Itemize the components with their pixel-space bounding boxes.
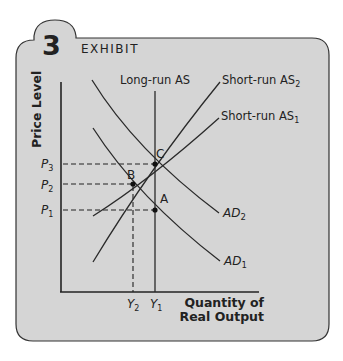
point-a-label: A: [160, 192, 169, 206]
x-axis-label-line2: Real Output: [180, 309, 265, 324]
point-a-marker: [152, 207, 157, 212]
lras-label: Long-run AS: [120, 73, 190, 87]
y-axis-label: Price Level: [29, 71, 44, 148]
sras2-label: Short-run AS2: [222, 73, 300, 89]
point-b-label: B: [127, 168, 135, 182]
exhibit-panel: [16, 20, 329, 341]
point-c-label: C: [156, 147, 164, 161]
point-b-marker: [130, 181, 135, 186]
exhibit-title: EXHIBIT: [81, 42, 139, 56]
exhibit-figure: 3 EXHIBIT Price Level C B A Long-run AS …: [0, 0, 343, 361]
x-axis-label-line1: Quantity of: [184, 295, 264, 310]
sras1-label: Short-run AS1: [221, 109, 299, 125]
exhibit-number: 3: [42, 30, 61, 61]
point-c-marker: [152, 161, 157, 166]
